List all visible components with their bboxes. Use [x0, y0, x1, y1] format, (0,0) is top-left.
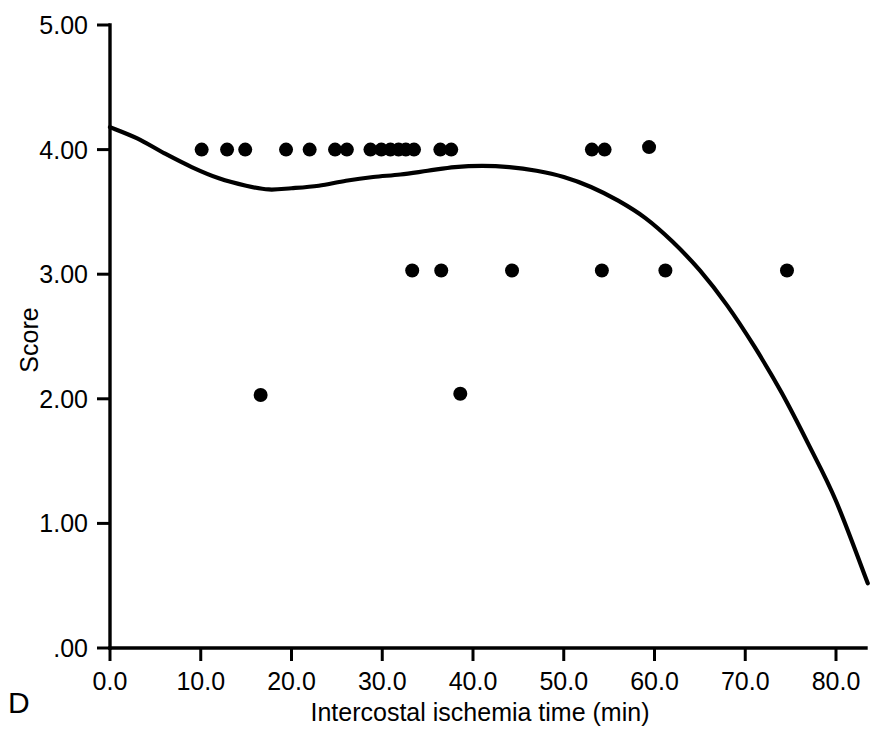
data-point-group [195, 140, 794, 402]
data-point [642, 140, 656, 154]
data-point [405, 263, 419, 277]
data-point [407, 143, 421, 157]
data-point [279, 143, 293, 157]
y-tick-label: .00 [53, 634, 88, 662]
x-tick-label: 30.0 [358, 667, 407, 695]
x-axis-tick-labels: 0.010.020.030.040.050.060.070.080.0 [93, 667, 861, 695]
y-axis-tick-marks [97, 25, 110, 648]
x-tick-label: 60.0 [630, 667, 679, 695]
data-point [303, 143, 317, 157]
x-axis-tick-marks [110, 648, 836, 661]
y-axis-title: Score [15, 307, 43, 372]
x-tick-label: 80.0 [812, 667, 861, 695]
panel-label: D [8, 686, 30, 719]
data-point [505, 263, 519, 277]
x-tick-label: 50.0 [539, 667, 588, 695]
y-tick-label: 1.00 [39, 509, 88, 537]
x-tick-label: 10.0 [176, 667, 225, 695]
figure-panel-d: .001.002.003.004.005.00 0.010.020.030.04… [0, 0, 873, 730]
data-point [340, 143, 354, 157]
fit-curve-line [110, 127, 868, 583]
y-tick-label: 5.00 [39, 11, 88, 39]
data-point [453, 387, 467, 401]
x-tick-label: 70.0 [721, 667, 770, 695]
data-point [220, 143, 234, 157]
data-point [254, 388, 268, 402]
data-point [585, 143, 599, 157]
data-point [780, 263, 794, 277]
x-tick-label: 0.0 [93, 667, 128, 695]
y-tick-label: 2.00 [39, 385, 88, 413]
x-tick-label: 40.0 [449, 667, 498, 695]
data-point [434, 263, 448, 277]
y-axis-tick-labels: .001.002.003.004.005.00 [39, 11, 88, 662]
y-tick-label: 4.00 [39, 136, 88, 164]
data-point [444, 143, 458, 157]
data-point [195, 143, 209, 157]
x-tick-label: 20.0 [267, 667, 316, 695]
y-tick-label: 3.00 [39, 260, 88, 288]
x-axis-title: Intercostal ischemia time (min) [311, 698, 650, 726]
data-point [658, 263, 672, 277]
data-point [238, 143, 252, 157]
data-point [595, 263, 609, 277]
data-point [598, 143, 612, 157]
scatter-plot: .001.002.003.004.005.00 0.010.020.030.04… [0, 0, 873, 730]
